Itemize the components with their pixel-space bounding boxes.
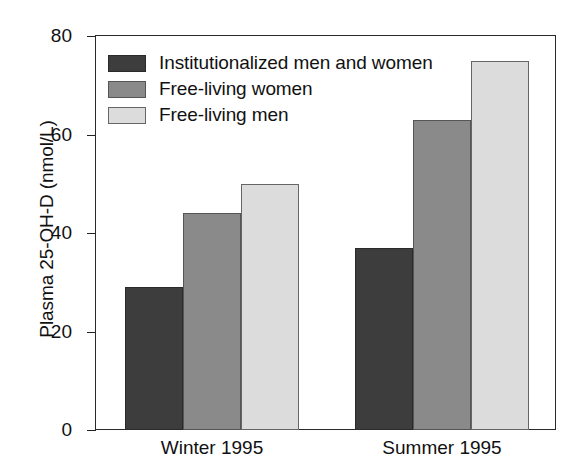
x-axis-tick-label: Winter 1995 bbox=[112, 437, 312, 459]
bar bbox=[413, 120, 471, 430]
legend-item: Free-living women bbox=[108, 76, 433, 102]
bar-chart-figure: Plasma 25-OH-D (nmol/L) 806040200 Winter… bbox=[0, 0, 583, 474]
bar bbox=[183, 213, 241, 430]
medium-gray-swatch bbox=[108, 81, 146, 98]
legend-item: Free-living men bbox=[108, 102, 433, 128]
bar bbox=[471, 61, 529, 430]
chart-legend: Institutionalized men and womenFree-livi… bbox=[108, 50, 433, 128]
x-axis-tick-label: Summer 1995 bbox=[342, 437, 542, 459]
legend-item-label: Institutionalized men and women bbox=[159, 52, 433, 74]
bar bbox=[355, 248, 413, 430]
light-gray-swatch bbox=[108, 107, 146, 124]
legend-item-label: Free-living men bbox=[159, 104, 288, 126]
bar bbox=[125, 287, 183, 430]
bar bbox=[241, 184, 299, 430]
dark-gray-swatch bbox=[108, 55, 146, 72]
legend-item: Institutionalized men and women bbox=[108, 50, 433, 76]
legend-item-label: Free-living women bbox=[159, 78, 313, 100]
